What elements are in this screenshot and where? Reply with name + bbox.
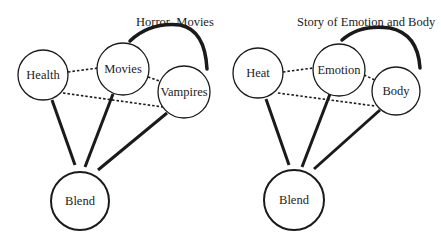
node-label: Vampires	[160, 85, 207, 99]
solid-link-body-blend	[314, 110, 380, 169]
diagram-title: Horror Movies	[136, 15, 214, 29]
solid-link-emotion-blend	[302, 94, 330, 167]
node-label: Blend	[65, 194, 96, 208]
node-label: Emotion	[317, 63, 361, 77]
solid-link-health-blend	[52, 100, 75, 165]
diagram-emotion-body: Story of Emotion and Body Heat Emotion B…	[233, 15, 436, 230]
node-label: Blend	[279, 193, 310, 207]
dotted-link-health-movies	[68, 68, 98, 72]
node-label: Body	[382, 84, 410, 98]
dotted-link-emotion-body	[364, 75, 375, 80]
node-label: Heat	[246, 66, 270, 80]
solid-link-movies-blend	[85, 94, 113, 167]
conceptual-blend-diagrams: Horror Movies Health Movies Vampires Ble…	[0, 0, 441, 242]
solid-link-vampires-blend	[98, 113, 167, 170]
diagram-horror-movies: Horror Movies Health Movies Vampires Ble…	[18, 15, 214, 230]
solid-link-heat-blend	[266, 99, 289, 165]
node-label: Health	[26, 68, 60, 82]
node-label: Movies	[104, 62, 142, 76]
dotted-link-heat-emotion	[283, 68, 313, 72]
